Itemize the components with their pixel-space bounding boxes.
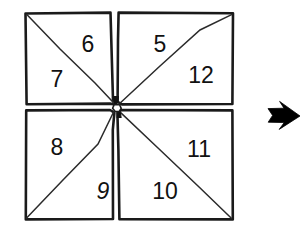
dissection-diagram: 6 7 5 12 8 9 11 10	[0, 0, 304, 241]
quadrant-top-left	[26, 13, 115, 105]
triangle-label-8: 8	[51, 134, 64, 160]
quadrant-top-right	[118, 13, 233, 105]
quadrant-top-right-outline	[118, 13, 233, 105]
triangle-label-12: 12	[188, 62, 214, 88]
figure-root: 6 7 5 12 8 9 11 10	[0, 0, 304, 241]
arrow-right-icon	[268, 101, 300, 129]
arrow-right-icon-shape	[268, 101, 300, 129]
triangle-label-11: 11	[187, 136, 211, 162]
triangle-label-9: 9	[97, 178, 110, 204]
triangle-label-6: 6	[82, 31, 95, 57]
triangle-label-7: 7	[51, 66, 64, 92]
center-hub	[113, 105, 122, 112]
triangle-label-5: 5	[154, 31, 167, 57]
triangle-label-10: 10	[152, 178, 178, 204]
